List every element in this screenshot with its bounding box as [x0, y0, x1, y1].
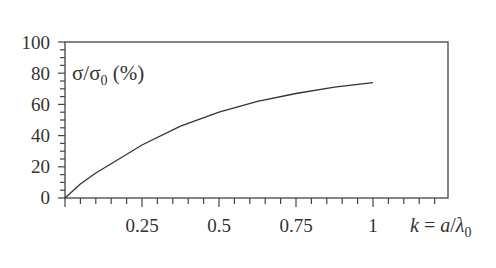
y-axis-ticks: [58, 42, 65, 198]
y-axis-label: σ/σ0 (%): [72, 61, 144, 88]
y-tick-label: 40: [31, 125, 50, 146]
y-tick-label: 100: [22, 32, 51, 53]
x-tick-label: 0.75: [279, 215, 312, 236]
x-tick-label: 1: [368, 215, 378, 236]
x-axis-ticks: [65, 198, 435, 207]
chart: 100 80 60 40 20 0 0.25 0.5 0.75 1 σ/σ0 (…: [0, 0, 496, 268]
y-tick-label: 80: [31, 63, 50, 84]
y-tick-label: 0: [41, 187, 51, 208]
x-axis-label: k = a/λ0: [410, 214, 471, 240]
x-tick-label: 0.25: [125, 215, 158, 236]
x-tick-label: 0.5: [207, 215, 231, 236]
y-tick-label: 20: [31, 156, 50, 177]
y-tick-label: 60: [31, 94, 50, 115]
data-curve: [65, 83, 373, 198]
